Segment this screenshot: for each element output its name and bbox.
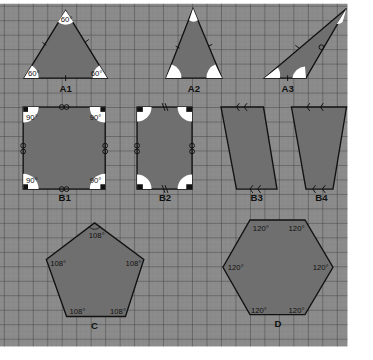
angle-label: 120° — [289, 306, 305, 315]
angle-label: 120° — [253, 224, 269, 233]
shape-label: B3 — [251, 192, 264, 203]
shape-label: C — [91, 320, 98, 331]
angle-label: 120° — [251, 306, 267, 315]
shape-label: A2 — [188, 83, 200, 94]
shape-b1: 90° 90° 90° 90° B1 — [21, 105, 108, 203]
angle-label: 108° — [125, 259, 141, 268]
shape-label: B4 — [315, 192, 328, 203]
shape-label: D — [274, 318, 281, 329]
angle-label: 108° — [110, 307, 126, 316]
angle-label: 90° — [90, 113, 102, 122]
shape-label: B1 — [59, 192, 72, 203]
geometry-diagram: 60° 60° 60° A1 A2 A3 — [0, 0, 373, 360]
angle-label: 90° — [26, 113, 38, 122]
shape-label: A1 — [59, 83, 72, 94]
angle-label: 108° — [89, 231, 105, 240]
angle-label: 90° — [90, 176, 102, 185]
angle-label: 120° — [313, 263, 329, 272]
angle-label: 108° — [50, 259, 66, 268]
grid-paper: 60° 60° 60° A1 A2 A3 — [0, 0, 360, 355]
angle-label: 120° — [289, 224, 305, 233]
angle-label: 60° — [61, 15, 73, 24]
shape-label: B2 — [159, 192, 171, 203]
angle-label: 108° — [69, 307, 85, 316]
shape-b2: B2 — [135, 103, 195, 202]
angle-label: 60° — [28, 69, 40, 78]
angle-label: 90° — [26, 176, 38, 185]
angle-label: 60° — [91, 69, 103, 78]
angle-label: 120° — [228, 263, 244, 272]
shape-label: A3 — [281, 83, 294, 94]
